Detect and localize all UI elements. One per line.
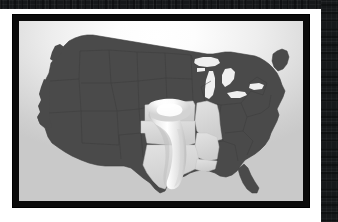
northeast-maine <box>272 49 289 71</box>
florida-peninsula <box>238 164 259 193</box>
top-texture-band <box>0 0 338 9</box>
top-band-texture <box>0 0 338 9</box>
west-coast-detail <box>37 79 52 128</box>
map-panel <box>19 21 303 201</box>
funnel-highlight <box>157 104 183 117</box>
usa-map <box>19 21 303 201</box>
right-texture-band <box>321 0 338 222</box>
region-arkansas <box>195 133 219 161</box>
picture-frame <box>13 15 309 207</box>
artwork-stage <box>0 0 338 222</box>
region-louisiana-edge <box>195 159 217 171</box>
right-band-texture <box>321 0 338 222</box>
